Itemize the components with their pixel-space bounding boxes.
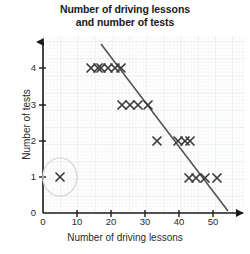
data-point bbox=[213, 174, 221, 182]
data-point bbox=[87, 64, 95, 72]
scatter-chart: Number of driving lessons and number of … bbox=[0, 0, 250, 254]
data-point bbox=[126, 101, 134, 109]
data-point bbox=[192, 174, 200, 182]
data-point bbox=[185, 174, 193, 182]
data-point bbox=[144, 101, 152, 109]
x-tick-label-0: 0 bbox=[33, 216, 53, 227]
x-tick-label-20: 20 bbox=[101, 216, 121, 227]
data-point bbox=[153, 137, 161, 145]
data-point bbox=[118, 101, 126, 109]
data-point bbox=[186, 137, 194, 145]
x-tick-label-30: 30 bbox=[135, 216, 155, 227]
x-tick-label-10: 10 bbox=[67, 216, 87, 227]
x-axis-label: Number of driving lessons bbox=[0, 232, 250, 243]
data-point bbox=[104, 64, 112, 72]
data-point bbox=[134, 101, 142, 109]
y-axis-label: Number of tests bbox=[21, 50, 32, 200]
x-tick-label-40: 40 bbox=[169, 216, 189, 227]
x-tick-label-50: 50 bbox=[203, 216, 223, 227]
data-markers bbox=[56, 64, 221, 182]
data-point bbox=[56, 173, 64, 181]
